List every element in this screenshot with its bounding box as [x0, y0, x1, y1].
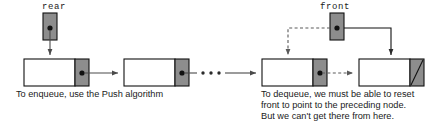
node-3-link-dot — [317, 70, 322, 75]
dequeue-caption-line-1: To dequeue, we must be able to reset — [261, 89, 415, 99]
ellipsis-dot-1 — [201, 71, 204, 74]
linked-list-queue-diagram: rear front — [0, 0, 439, 129]
front-pointer-dot — [334, 25, 339, 30]
connector-front-to-node3 — [288, 28, 330, 55]
rear-pointer-dot — [47, 25, 52, 30]
list-node-3 — [262, 59, 327, 86]
ellipsis-dot-2 — [209, 71, 212, 74]
node-4-data-cell — [359, 59, 410, 86]
node-1-link-dot — [79, 70, 84, 75]
node-2-link-dot — [179, 70, 184, 75]
dequeue-caption-line-3: But we can't get there from here. — [261, 111, 394, 121]
list-node-4 — [359, 59, 424, 86]
node-1-data-cell — [24, 59, 75, 86]
front-pointer-label: front — [320, 2, 350, 12]
list-node-2 — [124, 59, 189, 86]
list-node-1 — [24, 59, 89, 86]
enqueue-caption-line-1: To enqueue, use the Push algorithm — [16, 89, 163, 99]
dequeue-caption-line-2: front to point to the preceding node. — [261, 100, 406, 110]
node-2-data-cell — [124, 59, 175, 86]
diagram-canvas: rear front — [0, 0, 439, 129]
connector-front-to-node4 — [344, 28, 391, 55]
ellipsis-dot-3 — [217, 71, 220, 74]
rear-pointer-label: rear — [42, 2, 66, 12]
node-3-data-cell — [262, 59, 313, 86]
ellipsis-continuation — [201, 71, 220, 74]
